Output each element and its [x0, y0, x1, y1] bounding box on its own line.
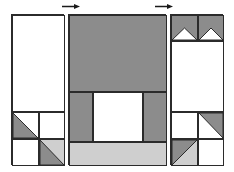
right-mid-large: plain white rectangle [171, 41, 224, 112]
top-left-arrow-icon [62, 4, 80, 9]
center-top-field: large gray field [69, 15, 167, 92]
right-mid-left: plain white square [171, 112, 198, 139]
left-panel: plain white rectanglehalf-square triangl… [11, 14, 64, 165]
left-bot-left: plain white square [12, 139, 39, 166]
top-right-arrow-icon [155, 4, 173, 9]
left-bot-right: half-square triangle lower-left shaded [39, 139, 65, 166]
cell-graphic [13, 113, 38, 138]
left-mid-right: plain white square [39, 112, 65, 139]
right-panel: flying-geese chevron leftflying-geese ch… [170, 14, 223, 165]
cell-graphic [199, 113, 223, 138]
center-window: white center window [93, 92, 143, 142]
center-right-post: right gray post [143, 92, 167, 142]
arrow-right-icon [62, 4, 80, 9]
center-left-post: left gray post [69, 92, 93, 142]
center-panel: large gray fieldleft gray postwhite cent… [68, 14, 166, 165]
cell-graphic [172, 16, 197, 40]
right-top-left-chevron: flying-geese chevron left [171, 15, 198, 41]
right-top-right-chevron: flying-geese chevron right [198, 15, 224, 41]
right-bot-right: plain white square [198, 139, 224, 166]
cell-graphic [172, 140, 197, 165]
left-top-large: plain white rectangle [12, 15, 65, 112]
right-mid-right: half-square triangle upper-right [198, 112, 224, 139]
diagram-canvas: plain white rectanglehalf-square triangl… [0, 0, 234, 172]
right-bot-left: half-square triangle upper-left shaded [171, 139, 198, 166]
arrow-right-icon [155, 4, 173, 9]
cell-graphic [40, 140, 64, 165]
cell-graphic [199, 16, 223, 40]
left-mid-left: half-square triangle lower-left [12, 112, 39, 139]
center-base-bar: light gray base bar [69, 142, 167, 166]
